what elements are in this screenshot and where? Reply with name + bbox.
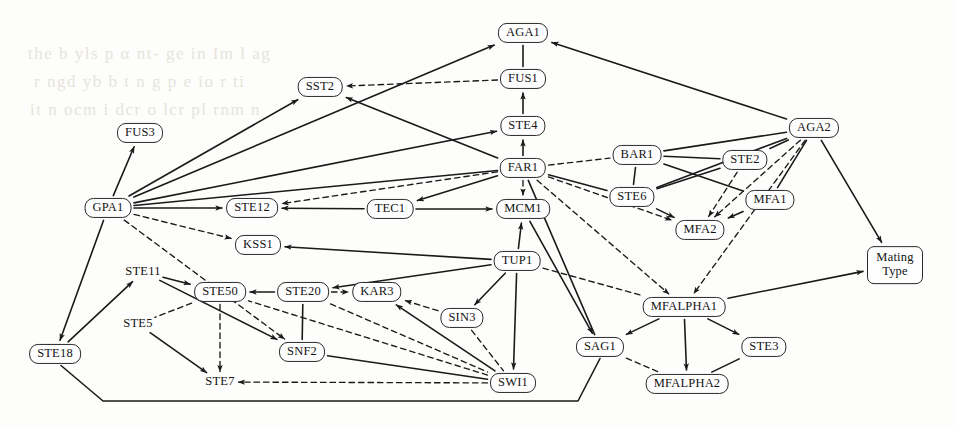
edge-mfalpha1-to-ste3 [708,319,739,335]
bleed-text-line-3: it n ocm i dcr o lcr pl rnm n [30,100,261,120]
edge-far1-to-tec1 [417,176,497,201]
node-tec1[interactable]: TEC1 [367,199,414,219]
edge-tup1-to-sin3 [475,273,505,305]
node-mfa1[interactable]: MFA1 [745,190,794,210]
edge-aga2-to-ste2 [770,140,788,149]
node-matingtype[interactable]: Mating Type [867,246,923,284]
node-ste7[interactable]: STE7 [203,374,236,389]
node-far1[interactable]: FAR1 [500,158,546,178]
node-ste5[interactable]: STE5 [121,316,154,331]
edge-ste6-to-mfa2 [657,209,675,218]
node-ste2[interactable]: STE2 [722,150,767,170]
edge-gpa1-to-kss1 [134,214,231,238]
edge-ste2-to-ste6 [657,168,720,189]
edge-layer [0,0,955,426]
edge-mfalpha1-to-mfalpha2 [685,320,687,371]
edge-aga2-to-bar1 [664,132,787,151]
edge-tec1-to-ste12 [282,208,364,209]
edge-far1-to-bar1 [549,158,611,165]
node-ste50[interactable]: STE50 [194,282,246,302]
edge-sag1-to-mfalpha2 [626,358,659,372]
node-aga2[interactable]: AGA2 [789,118,839,138]
edge-gpa1-to-aga1 [134,45,494,197]
node-mfalpha2[interactable]: MFALPHA2 [646,374,729,394]
edge-tup1-to-swi1 [514,274,517,370]
node-sst2[interactable]: SST2 [298,77,343,97]
node-mfalpha1[interactable]: MFALPHA1 [643,297,726,317]
edge-gpa1-to-far1 [134,171,498,206]
node-ste11[interactable]: STE11 [123,264,162,279]
node-fus1[interactable]: FUS1 [500,69,546,89]
edge-tup1-to-kss1 [285,247,491,260]
node-ste3[interactable]: STE3 [741,337,786,357]
edge-gpa1-to-fus3 [113,147,134,196]
edge-mcm1-to-sag1 [530,221,593,333]
network-diagram-canvas: the b yls p α nt- ge in Im l ag r ngd yb… [0,0,955,426]
edge-tup1-to-mcm1 [518,223,521,249]
edge-tup1-to-mfalpha1 [543,268,641,295]
edge-bar1-to-ste2 [664,156,720,159]
node-gpa1[interactable]: GPA1 [85,198,132,218]
edge-sin3-to-kar3 [405,301,438,311]
node-ste12[interactable]: STE12 [226,198,278,218]
edge-mfalpha1-to-matingtype [728,271,863,298]
edge-aga2-to-aga1 [552,42,787,119]
edge-swi1-to-ste7 [239,382,488,383]
node-ste4[interactable]: STE4 [500,116,545,136]
edge-fus1-to-sst2 [347,80,498,86]
bleed-text-line-1: the b yls p α nt- ge in Im l ag [28,44,271,64]
edge-swi1-to-snf2 [328,356,488,380]
edge-ste20-to-snf2 [302,305,303,340]
edge-aga2-to-matingtype [821,140,881,242]
node-aga1[interactable]: AGA1 [498,23,548,43]
edge-ste11-to-ste50 [163,277,190,284]
node-kar3[interactable]: KAR3 [352,282,401,302]
node-sag1[interactable]: SAG1 [576,337,624,357]
node-ste20[interactable]: STE20 [277,282,329,302]
edge-ste18-to-ste11 [68,282,133,342]
node-mfa2[interactable]: MFA2 [675,220,724,240]
edge-ste3-to-mfalpha2 [712,359,739,372]
edge-mfa1-to-mfa2 [728,212,743,218]
node-bar1[interactable]: BAR1 [613,145,662,165]
edge-bar1-to-ste6 [634,168,636,185]
node-swi1[interactable]: SWI1 [490,373,536,393]
bleed-text-line-2: r ngd yb b t n g p e io r ti [34,72,246,92]
edge-gpa1-to-ste18 [60,220,104,340]
edge-gpa1-to-sst2 [129,100,298,196]
edge-mfalpha1-to-sag1 [626,319,659,335]
edge-ste5-to-ste7 [150,333,207,373]
edge-gpa1-to-ste4 [134,131,497,203]
node-ste18[interactable]: STE18 [29,344,81,364]
node-sin3[interactable]: SIN3 [440,308,483,328]
edge-ste2-to-mfa2 [709,172,737,216]
node-kss1[interactable]: KSS1 [235,235,281,255]
edge-sin3-to-swi1 [472,330,504,370]
edge-aga2-to-mfa1 [778,140,807,187]
node-snf2[interactable]: SNF2 [279,342,325,362]
edge-ste50-to-ste5 [155,303,192,317]
node-ste6[interactable]: STE6 [609,187,654,207]
edge-far1-to-ste6 [549,175,608,191]
node-fus3[interactable]: FUS3 [117,123,163,143]
edge-far1-to-sst2 [346,98,497,158]
node-tup1[interactable]: TUP1 [494,251,541,271]
node-mcm1[interactable]: MCM1 [496,199,550,219]
